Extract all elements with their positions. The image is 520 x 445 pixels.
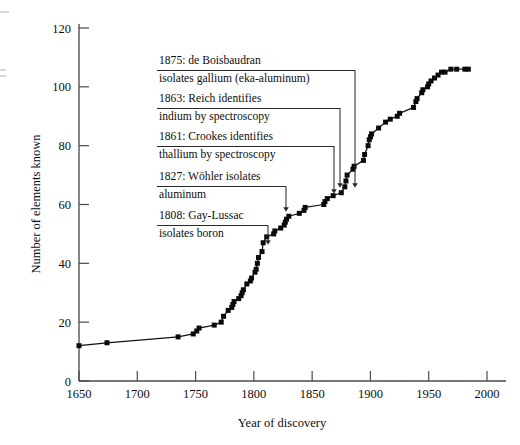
- y-tick-label: 100: [52, 80, 71, 94]
- x-tick-label: 1800: [241, 387, 266, 401]
- y-tick-label: 20: [59, 316, 72, 330]
- y-tick-label: 120: [52, 22, 71, 36]
- annotation-1861-line1: 1861: Crookes identifies: [159, 130, 273, 143]
- data-point-marker: [325, 196, 330, 201]
- x-tick-label: 1650: [67, 387, 92, 401]
- data-point-marker: [454, 67, 459, 72]
- data-point-marker: [77, 343, 82, 348]
- data-point-marker: [383, 120, 388, 125]
- data-point-marker: [232, 299, 237, 304]
- annotation-1808-line1: 1808: Gay-Lussac: [159, 209, 244, 222]
- data-point-marker: [104, 340, 109, 345]
- data-point-marker: [261, 240, 266, 245]
- data-point-marker: [176, 334, 181, 339]
- data-point-marker: [466, 67, 471, 72]
- x-axis-title: Year of discovery: [238, 416, 327, 430]
- annotation-1827-line1: 1827: Wöhler isolates: [159, 170, 261, 183]
- x-tick-label: 1700: [125, 387, 150, 401]
- x-tick-label: 2000: [475, 387, 500, 401]
- data-point-marker: [256, 255, 261, 260]
- data-line: [79, 69, 468, 346]
- data-point-marker: [369, 131, 374, 136]
- data-point-marker: [388, 117, 393, 122]
- leader-1863: [326, 109, 340, 187]
- data-point-marker: [255, 261, 260, 266]
- data-point-marker: [343, 178, 348, 183]
- annotation-1861-line2: thallium by spectroscopy: [159, 148, 276, 161]
- annotation-1827-line2: aluminum: [159, 188, 206, 201]
- y-tick-label: 60: [59, 198, 72, 212]
- annotation-1863: 1863: Reich identifies indium by spectro…: [157, 92, 326, 123]
- annotation-1875-line2: isolates gallium (eka-aluminum): [159, 72, 310, 85]
- data-point-marker: [448, 67, 453, 72]
- data-point-marker: [303, 205, 308, 210]
- y-tick-label: 80: [59, 139, 72, 153]
- y-axis-title: Number of elements known: [29, 134, 43, 274]
- data-point-marker: [411, 105, 416, 110]
- data-point-marker: [197, 326, 202, 331]
- y-tick-label: 40: [59, 257, 72, 271]
- data-point-marker: [342, 184, 347, 189]
- x-tick-label: 1850: [300, 387, 325, 401]
- annotation-1875: 1875: de Boisbaudran isolates gallium (e…: [157, 54, 345, 85]
- data-point-marker: [297, 211, 302, 216]
- chart-figure: 020406080100120 165017001750180018501900…: [0, 0, 520, 445]
- annotation-leader-lines: [268, 71, 355, 244]
- annotation-1861: 1861: Crookes identifies thallium by spe…: [157, 130, 316, 161]
- data-point-marker: [339, 190, 344, 195]
- data-point-marker: [376, 126, 381, 131]
- data-point-marker: [397, 111, 402, 116]
- annotation-1863-line1: 1863: Reich identifies: [159, 92, 262, 105]
- data-point-marker: [221, 314, 226, 319]
- data-point-marker: [420, 87, 425, 92]
- data-point-marker: [249, 276, 254, 281]
- data-point-marker: [415, 96, 420, 101]
- data-point-marker: [366, 143, 371, 148]
- x-axis-ticks: 16501700175018001850190019502000: [67, 371, 500, 401]
- x-tick-label: 1750: [183, 387, 208, 401]
- x-tick-label: 1900: [358, 387, 383, 401]
- data-point-marker: [361, 158, 366, 163]
- scan-edge-artifacts: [0, 12, 9, 76]
- data-point-marker: [212, 323, 217, 328]
- leader-1861: [316, 147, 334, 193]
- annotation-1827: 1827: Wöhler isolates aluminum: [157, 170, 286, 201]
- data-point-marker: [260, 249, 265, 254]
- data-point-marker: [286, 214, 291, 219]
- data-point-marker: [272, 228, 277, 233]
- data-point-marker: [443, 70, 448, 75]
- data-point-marker: [254, 267, 259, 272]
- x-tick-label: 1950: [416, 387, 441, 401]
- annotation-1808-line2: isolates boron: [159, 227, 224, 240]
- annotation-1863-line2: indium by spectroscopy: [159, 110, 270, 123]
- data-point-marker: [345, 173, 350, 178]
- data-point-marker: [331, 193, 336, 198]
- data-point-marker: [352, 164, 357, 169]
- chart-canvas: 020406080100120 165017001750180018501900…: [0, 0, 520, 445]
- data-point-marker: [219, 320, 224, 325]
- annotation-1808: 1808: Gay-Lussac isolates boron: [157, 209, 268, 240]
- annotation-1875-line1: 1875: de Boisbaudran: [159, 54, 261, 67]
- y-axis-ticks: 020406080100120: [52, 22, 89, 389]
- data-point-marker: [241, 287, 246, 292]
- data-point-marker: [362, 152, 367, 157]
